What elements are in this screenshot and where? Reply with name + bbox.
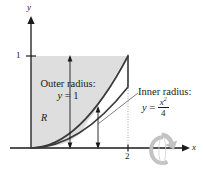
figure-canvas: y x 1 2 R Outer radius: y = 1 Inner radi… (0, 0, 203, 176)
outer-radius-equation: y = 1 (32, 91, 104, 102)
revolution-arrow-icon (150, 133, 177, 164)
shaded-region-R-fill2 (31, 56, 128, 148)
inner-radius-equation: y = x2 4 (138, 99, 202, 119)
outer-radius-lhs: y (57, 90, 62, 101)
inner-radius-relation: = (149, 102, 155, 113)
y-axis-label: y (27, 3, 31, 12)
inner-radius-denominator: 4 (158, 108, 169, 118)
outer-radius-relation: = (65, 90, 71, 101)
x-axis-label: x (192, 143, 196, 152)
outer-radius-callout: Outer radius: y = 1 (32, 79, 104, 101)
y-axis-arrowhead (27, 16, 34, 24)
y-tick-label-1: 1 (16, 51, 21, 60)
inner-radius-lhs: y (142, 102, 147, 113)
region-label-R: R (41, 113, 47, 123)
outer-radius-title: Outer radius: (40, 78, 95, 89)
inner-radius-numerator: x2 (158, 98, 169, 108)
inner-radius-fraction: x2 4 (158, 98, 169, 118)
x-tick-label-2: 2 (125, 152, 130, 161)
inner-radius-exponent: 2 (164, 96, 167, 102)
outer-radius-rhs: 1 (73, 90, 78, 101)
inner-radius-leader-line (98, 93, 138, 124)
inner-radius-callout: Inner radius: y = x2 4 (138, 87, 202, 119)
x-axis-arrowhead (182, 144, 190, 151)
